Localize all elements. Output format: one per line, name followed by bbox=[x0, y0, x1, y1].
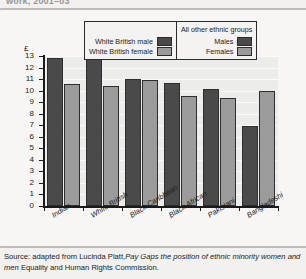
bar-female bbox=[181, 96, 197, 206]
bar-female bbox=[220, 98, 236, 206]
y-axis-tick bbox=[39, 160, 44, 161]
source-prefix: Source: adapted from Lucinda Platt, bbox=[4, 252, 125, 261]
legend-label-white-british-female: White British female bbox=[89, 48, 153, 56]
x-axis-tick bbox=[122, 207, 123, 211]
chart-legend: White British male White British female … bbox=[84, 21, 257, 60]
x-axis-tick bbox=[278, 207, 279, 211]
y-axis-tick-label: 8 bbox=[14, 110, 34, 118]
y-axis-tick-label: 6 bbox=[14, 133, 34, 141]
legend-label-other-males: Males bbox=[214, 38, 233, 46]
legend-label-other-females: Females bbox=[206, 48, 234, 56]
y-axis-tick-label: 1 bbox=[14, 190, 34, 198]
y-axis-tick bbox=[39, 148, 44, 149]
y-axis-tick bbox=[39, 125, 44, 126]
y-axis-tick-label: 5 bbox=[14, 144, 34, 152]
y-axis-tick-label: 7 bbox=[14, 121, 34, 129]
bar-male bbox=[47, 58, 63, 206]
y-axis-tick bbox=[39, 79, 44, 80]
legend-item-other-males: Males bbox=[181, 37, 253, 46]
y-axis-tick-label: 2 bbox=[14, 179, 34, 187]
y-axis-tick-label: 11 bbox=[14, 75, 34, 83]
legend-swatch-female-icon bbox=[157, 47, 172, 56]
y-axis-tick bbox=[39, 68, 44, 69]
bar-female bbox=[103, 86, 119, 206]
bar-male bbox=[242, 126, 258, 206]
legend-item-other-females: Females bbox=[181, 47, 253, 56]
bar-female bbox=[259, 91, 275, 206]
y-axis-tick-label: 0 bbox=[14, 202, 34, 210]
y-axis-tick-label: 10 bbox=[14, 87, 34, 95]
y-axis-tick-label: 9 bbox=[14, 98, 34, 106]
bar-female bbox=[142, 80, 158, 206]
legend-group-title: All other ethnic groups bbox=[181, 25, 253, 34]
bar-male bbox=[125, 79, 141, 206]
y-axis-tick bbox=[39, 137, 44, 138]
x-axis-tick bbox=[83, 207, 84, 211]
y-axis-tick bbox=[39, 114, 44, 115]
y-axis-tick-label: 3 bbox=[14, 167, 34, 175]
y-axis-tick bbox=[39, 171, 44, 172]
legend-group-other-ethnic: All other ethnic groups Males Females bbox=[177, 22, 257, 59]
legend-item-white-british-female: White British female bbox=[89, 47, 172, 56]
bar-series-container bbox=[44, 56, 278, 206]
y-axis-tick bbox=[39, 194, 44, 195]
legend-label-white-british-male: White British male bbox=[95, 38, 153, 46]
legend-swatch-male-icon bbox=[157, 37, 172, 46]
x-axis-tick bbox=[161, 207, 162, 211]
x-axis-tick bbox=[239, 207, 240, 211]
source-note: Source: adapted from Lucinda Platt,Pay G… bbox=[4, 252, 304, 273]
y-axis-tick-label: 4 bbox=[14, 156, 34, 164]
x-axis-tick bbox=[200, 207, 201, 211]
legend-swatch-other-female-icon bbox=[237, 47, 252, 56]
bar-male bbox=[203, 89, 219, 206]
legend-group-white-british: White British male White British female bbox=[85, 22, 177, 59]
legend-swatch-other-male-icon bbox=[237, 37, 252, 46]
y-axis-tick-label: 12 bbox=[14, 64, 34, 72]
legend-item-white-british-male: White British male bbox=[89, 37, 172, 46]
bar-male bbox=[86, 59, 102, 206]
y-axis-tick bbox=[39, 183, 44, 184]
source-suffix: Equality and Human Rights Commission. bbox=[19, 263, 159, 272]
x-axis-tick bbox=[44, 207, 45, 211]
bar-female bbox=[64, 84, 80, 206]
y-axis-tick bbox=[39, 102, 44, 103]
y-axis-tick bbox=[39, 56, 44, 57]
y-axis-tick bbox=[39, 91, 44, 92]
y-axis-tick-label: 13 bbox=[14, 52, 34, 60]
